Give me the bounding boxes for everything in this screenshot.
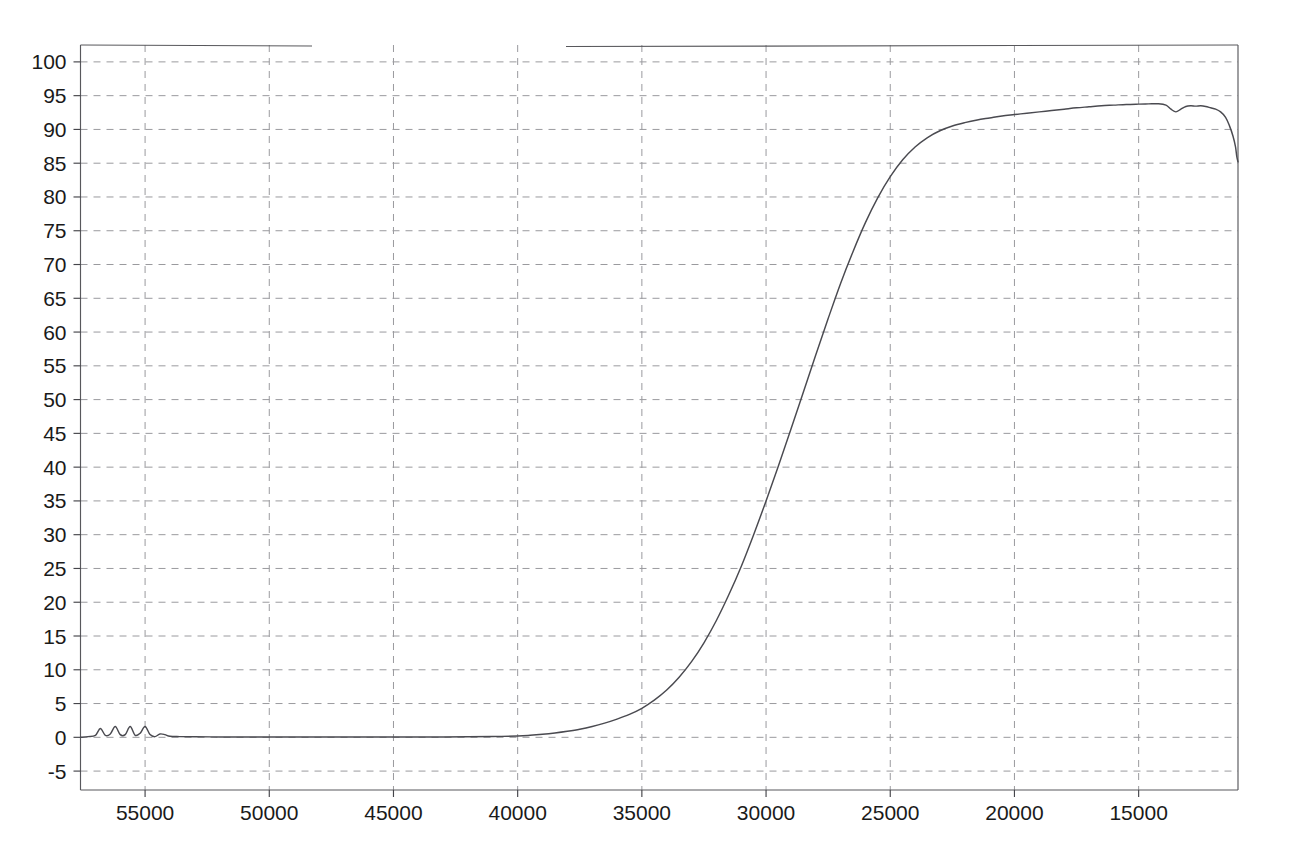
data-series-group — [81, 104, 1239, 738]
x-tick-label: 40000 — [488, 801, 546, 824]
data-curve-transmittance — [81, 104, 1239, 738]
x-tick-label: 45000 — [364, 801, 422, 824]
y-axis-tick-labels: 1009590858075706560555045403530252015105… — [31, 50, 66, 782]
chart-container: 1009590858075706560555045403530252015105… — [0, 0, 1289, 858]
y-tick-label: 50 — [43, 388, 66, 411]
x-tick-label: 15000 — [1109, 801, 1167, 824]
y-tick-label: 85 — [43, 152, 66, 175]
y-tick-label: 55 — [43, 354, 66, 377]
x-tick-label: 20000 — [985, 801, 1043, 824]
y-tick-label: 95 — [43, 84, 66, 107]
y-tick-label: 80 — [43, 185, 66, 208]
y-tick-label: 60 — [43, 321, 66, 344]
y-tick-label: 45 — [43, 422, 66, 445]
y-tick-label: 25 — [43, 557, 66, 580]
y-tick-label: 65 — [43, 287, 66, 310]
x-tick-label: 35000 — [613, 801, 671, 824]
y-tick-label: 30 — [43, 523, 66, 546]
y-tick-label: 70 — [43, 253, 66, 276]
axis-top-segment — [566, 45, 1238, 47]
y-axis-tickmarks — [74, 62, 81, 771]
y-tick-label: 100 — [31, 50, 66, 73]
y-tick-label: 10 — [43, 658, 66, 681]
y-tick-label: 90 — [43, 118, 66, 141]
vertical-gridlines — [145, 45, 1139, 790]
y-tick-label: 5 — [55, 692, 67, 715]
y-tick-label: 15 — [43, 625, 66, 648]
x-tick-label: 55000 — [116, 801, 174, 824]
x-tick-label: 50000 — [240, 801, 298, 824]
axis-top-segment — [81, 45, 313, 46]
x-tick-label: 25000 — [861, 801, 919, 824]
y-tick-label: 40 — [43, 456, 66, 479]
horizontal-gridlines — [81, 62, 1239, 771]
y-tick-label: 0 — [55, 726, 67, 749]
y-tick-label: 35 — [43, 489, 66, 512]
x-tick-label: 30000 — [737, 801, 795, 824]
x-axis-tickmarks — [145, 790, 1139, 797]
transmittance-chart: 1009590858075706560555045403530252015105… — [0, 0, 1289, 858]
y-tick-label: 20 — [43, 591, 66, 614]
x-axis-tick-labels: 5500050000450004000035000300002500020000… — [116, 801, 1168, 824]
plot-frame — [81, 45, 1239, 790]
y-tick-label: -5 — [48, 760, 67, 783]
y-tick-label: 75 — [43, 219, 66, 242]
